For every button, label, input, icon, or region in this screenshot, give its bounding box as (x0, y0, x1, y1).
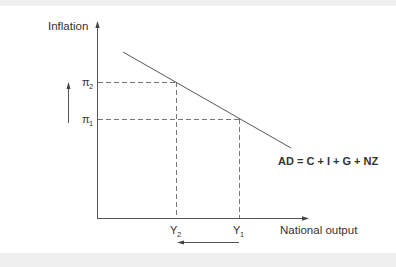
x-axis-arrowhead-icon (302, 216, 309, 220)
y2-subscript: 2 (177, 230, 181, 239)
guide-lines (98, 82, 240, 218)
x-axis-label: National output (280, 224, 358, 236)
pi2-subscript: 2 (89, 82, 93, 91)
tick-pi-1: π 1 (82, 113, 93, 128)
tick-y-1: Y 1 (233, 224, 244, 239)
y-axis-label: Inflation (48, 20, 88, 32)
y-axis-arrowhead-icon (95, 21, 99, 28)
up-arrow-icon (67, 82, 71, 123)
ad-curve (123, 52, 291, 148)
tick-pi-2: π 2 (82, 76, 93, 91)
x-axis (97, 216, 309, 220)
tick-y-2: Y 2 (170, 224, 181, 239)
ad-curve-label: AD = C + I + G + NZ (278, 155, 379, 167)
aggregate-demand-diagram: Inflation National output AD = C + I + G… (0, 0, 396, 267)
y1-subscript: 1 (240, 230, 244, 239)
left-arrow-icon (177, 241, 239, 245)
pi1-subscript: 1 (89, 119, 93, 128)
